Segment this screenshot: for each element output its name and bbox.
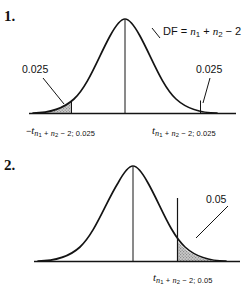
figure-two-tailed: 1.	[0, 0, 251, 146]
t-distribution-curve	[38, 166, 226, 261]
right-tail-area-label: 0.025	[196, 64, 222, 75]
left-tail-area-label: 0.025	[22, 64, 48, 75]
df-leader-line	[152, 28, 160, 38]
critical-value-label: tn1 + n2 − 2; 0.05	[153, 272, 213, 283]
figure-2-plot	[0, 146, 251, 292]
right-area-leader-line	[203, 78, 210, 103]
figure-one-tailed: 2.	[0, 146, 251, 292]
right-tail-area-label: 0.05	[206, 194, 226, 205]
right-critical-value-label: tn1 + n2 − 2; 0.025	[152, 125, 216, 136]
area-leader-line	[196, 206, 228, 238]
degrees-of-freedom-label: DF = n1 + n2 − 2	[163, 26, 241, 37]
left-area-leader-line	[43, 78, 64, 104]
left-critical-value-label: −tn1 + n2 − 2; 0.025	[26, 125, 95, 136]
